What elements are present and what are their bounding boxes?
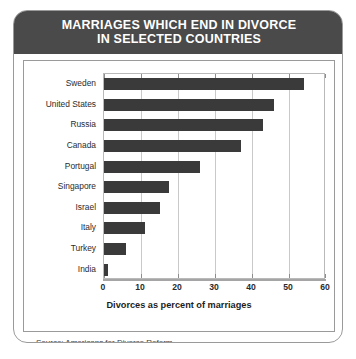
chart-card: MARRIAGES WHICH END IN DIVORCE IN SELECT… xyxy=(13,10,343,343)
bar-row xyxy=(104,95,326,116)
y-axis-label-text: United States xyxy=(46,99,100,109)
y-axis-label-united-states: United States xyxy=(24,94,100,115)
bar-row xyxy=(104,136,326,157)
y-axis-label-text: Sweden xyxy=(66,78,100,88)
y-axis-label-text: Italy xyxy=(81,222,100,232)
y-axis-category-labels: SwedenUnited StatesRussiaCanadaPortugalS… xyxy=(24,73,100,279)
bar-russia xyxy=(104,119,263,131)
x-tick-label-30: 30 xyxy=(209,282,219,292)
bar-row xyxy=(104,115,326,136)
x-tick-label-40: 40 xyxy=(246,282,256,292)
y-axis-label-russia: Russia xyxy=(24,114,100,135)
x-axis-line xyxy=(103,279,326,281)
plot-area xyxy=(103,73,325,279)
y-axis-label-text: Canada xyxy=(67,140,100,150)
y-axis-label-italy: Italy xyxy=(24,217,100,238)
x-tick-label-60: 60 xyxy=(320,282,330,292)
bar-row xyxy=(104,239,326,260)
chart-title-line-1: MARRIAGES WHICH END IN DIVORCE xyxy=(62,18,296,33)
bar-united-states xyxy=(104,99,274,111)
x-tick-label-10: 10 xyxy=(135,282,145,292)
x-axis-title: Divorces as percent of marriages xyxy=(24,300,334,310)
bar-row xyxy=(104,177,326,198)
bar-israel xyxy=(104,202,160,214)
y-axis-label-india: India xyxy=(24,258,100,279)
bar-turkey xyxy=(104,243,126,255)
x-tick-label-20: 20 xyxy=(172,282,182,292)
y-axis-label-text: Turkey xyxy=(71,243,100,253)
bar-row xyxy=(104,218,326,239)
bar-italy xyxy=(104,222,145,234)
y-axis-label-portugal: Portugal xyxy=(24,155,100,176)
y-axis-label-singapore: Singapore xyxy=(24,176,100,197)
chart-header-band: MARRIAGES WHICH END IN DIVORCE IN SELECT… xyxy=(13,10,343,54)
y-axis-label-israel: Israel xyxy=(24,197,100,218)
bar-singapore xyxy=(104,181,169,193)
bar-portugal xyxy=(104,161,200,173)
y-axis-label-text: Portugal xyxy=(65,161,100,171)
bar-sweden xyxy=(104,78,304,90)
y-axis-label-text: Singapore xyxy=(58,181,100,191)
chart-title: MARRIAGES WHICH END IN DIVORCE IN SELECT… xyxy=(62,18,296,47)
bar-row xyxy=(104,259,326,280)
bar-row xyxy=(104,74,326,95)
y-axis-label-canada: Canada xyxy=(24,135,100,156)
y-axis-label-text: Israel xyxy=(76,202,100,212)
chart-title-line-2: IN SELECTED COUNTRIES xyxy=(62,32,296,47)
y-axis-label-text: Russia xyxy=(70,119,100,129)
x-tick-label-0: 0 xyxy=(101,282,106,292)
x-axis-tick-labels: 0102030405060 xyxy=(103,282,325,296)
y-axis-label-turkey: Turkey xyxy=(24,238,100,259)
y-axis-label-text: India xyxy=(78,264,100,274)
bar-row xyxy=(104,156,326,177)
y-axis-label-sweden: Sweden xyxy=(24,73,100,94)
bar-row xyxy=(104,198,326,219)
chart-panel: SwedenUnited StatesRussiaCanadaPortugalS… xyxy=(23,60,335,332)
bar-series xyxy=(104,74,324,278)
bar-canada xyxy=(104,140,241,152)
x-tick-label-50: 50 xyxy=(283,282,293,292)
source-note: Source: Americans for Divorce Reform xyxy=(36,338,173,343)
bar-india xyxy=(104,264,108,276)
